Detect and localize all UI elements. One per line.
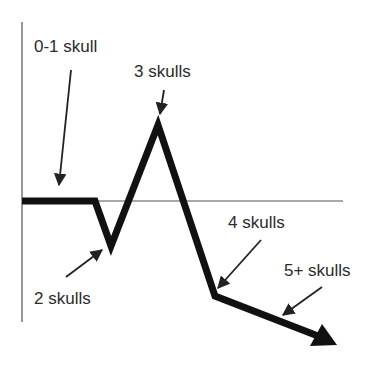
arrow-4-skulls	[218, 240, 261, 288]
label-3-skulls: 3 skulls	[134, 62, 191, 81]
label-2-skulls: 2 skulls	[34, 289, 91, 308]
label-4-skulls: 4 skulls	[228, 213, 285, 232]
diagram-canvas: 0-1 skull 3 skulls 2 skulls 4 skulls 5+ …	[0, 0, 378, 365]
label-5plus-skulls: 5+ skulls	[284, 261, 351, 280]
arrow-2-skulls	[66, 250, 102, 277]
arrow-3-skulls	[160, 90, 164, 114]
diagram-svg: 0-1 skull 3 skulls 2 skulls 4 skulls 5+ …	[0, 0, 378, 365]
arrow-0-1-skull	[59, 70, 71, 185]
label-0-1-skull: 0-1 skull	[34, 37, 97, 56]
arrow-5plus-skulls	[283, 287, 322, 315]
